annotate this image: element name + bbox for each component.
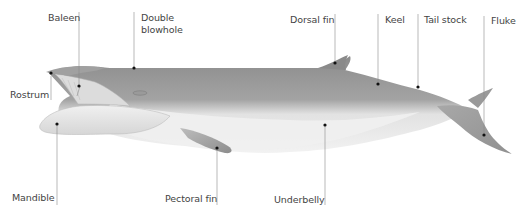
whale-anatomy-diagram: Baleen Double blowhole Dorsal fin Keel T… <box>0 0 526 216</box>
eye <box>133 91 147 95</box>
label-dorsal-fin: Dorsal fin <box>290 14 334 26</box>
label-double-blowhole: Double blowhole <box>141 12 183 35</box>
label-mandible: Mandible <box>12 192 54 204</box>
label-keel: Keel <box>385 14 405 26</box>
whale-illustration <box>0 0 526 216</box>
label-pectoral-fin: Pectoral fin <box>165 193 217 205</box>
lower-fluke-lobe <box>437 105 512 154</box>
dorsal-fin-shape <box>318 55 348 70</box>
label-baleen: Baleen <box>48 12 80 24</box>
upper-fluke-lobe <box>468 88 493 108</box>
label-fluke: Fluke <box>491 15 516 27</box>
label-underbelly: Underbelly <box>274 194 325 206</box>
label-rostrum: Rostrum <box>10 89 49 101</box>
label-tail-stock: Tail stock <box>424 14 467 26</box>
